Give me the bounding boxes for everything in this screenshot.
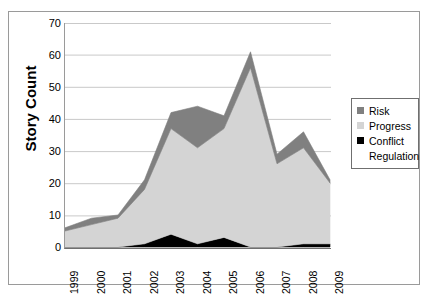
x-tick-label: 2000 — [95, 250, 107, 294]
legend-swatch-progress — [357, 122, 364, 129]
x-tick-label: 2005 — [227, 250, 239, 294]
chart-container: Story Count 70 60 50 40 30 20 10 0 19992… — [8, 11, 420, 285]
y-tick-label: 40 — [21, 114, 61, 125]
legend-label-risk: Risk — [369, 105, 389, 117]
legend-label-regulation: Regulation — [369, 150, 419, 162]
y-tick-label: 60 — [21, 50, 61, 61]
x-tick-label: 2008 — [307, 250, 319, 294]
y-axis-tick-labels: 70 60 50 40 30 20 10 0 — [14, 23, 61, 249]
legend-item-risk: Risk — [357, 103, 414, 118]
x-tick-label: 1999 — [68, 250, 80, 294]
chart-legend: Risk Progress Conflict Regulation — [351, 98, 419, 169]
legend-item-progress: Progress — [357, 118, 414, 133]
plot-area — [64, 23, 331, 249]
legend-swatch-risk — [357, 107, 364, 114]
x-tick-label: 2007 — [280, 250, 292, 294]
y-tick-label: 50 — [21, 82, 61, 93]
x-axis-tick-labels: 1999200020012002200320042005200620072008… — [64, 252, 331, 296]
y-tick-label: 10 — [21, 210, 61, 221]
series-layers — [65, 52, 330, 247]
x-tick-label: 2002 — [148, 250, 160, 294]
legend-item-regulation: Regulation — [357, 148, 414, 163]
x-tick-label: 2001 — [121, 250, 133, 294]
legend-label-progress: Progress — [369, 120, 411, 132]
x-tick-label: 2009 — [333, 250, 345, 294]
y-tick-label: 20 — [21, 178, 61, 189]
legend-label-conflict: Conflict — [369, 135, 404, 147]
y-tick-label: 30 — [21, 146, 61, 157]
y-tick-label: 0 — [21, 242, 61, 253]
legend-swatch-conflict — [357, 137, 364, 144]
area-chart-svg — [65, 23, 331, 248]
y-tick-label: 70 — [21, 18, 61, 29]
x-tick-label: 2004 — [201, 250, 213, 294]
legend-item-conflict: Conflict — [357, 133, 414, 148]
x-tick-label: 2006 — [254, 250, 266, 294]
legend-swatch-regulation — [357, 152, 364, 159]
x-tick-label: 2003 — [174, 250, 186, 294]
